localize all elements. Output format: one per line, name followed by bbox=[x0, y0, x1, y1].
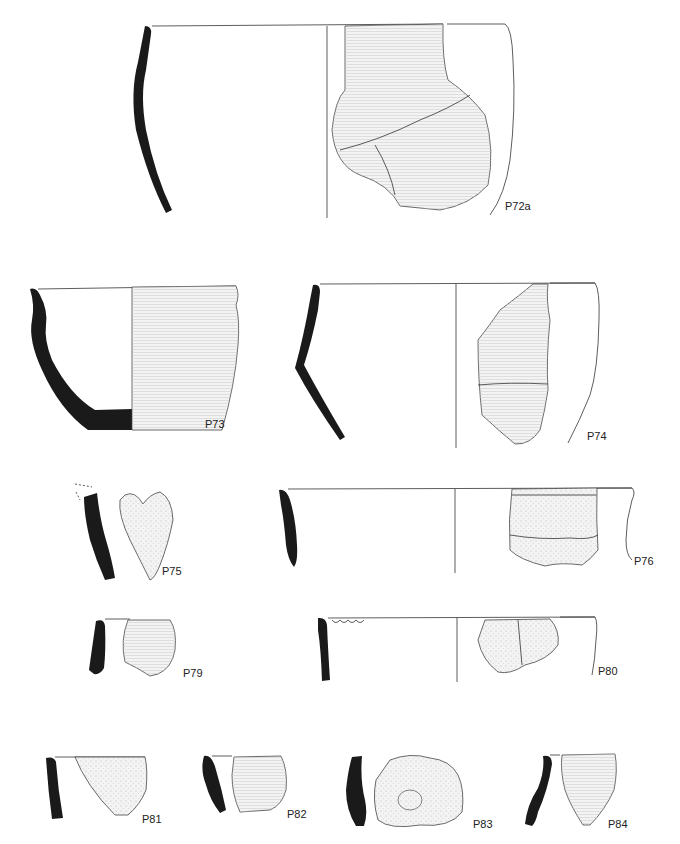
label-p75: P75 bbox=[162, 565, 182, 577]
vessel-p72a bbox=[133, 24, 514, 218]
label-p79: P79 bbox=[183, 667, 203, 679]
vessel-p75 bbox=[75, 484, 173, 580]
vessel-p84 bbox=[525, 754, 616, 826]
label-p80: P80 bbox=[598, 665, 618, 677]
label-p83: P83 bbox=[473, 818, 493, 830]
label-p76: P76 bbox=[634, 555, 654, 567]
label-p81: P81 bbox=[142, 813, 162, 825]
pottery-plate: P72a P73 P74 P75 P76 P79 P80 P81 P82 P83… bbox=[0, 0, 680, 844]
label-p82: P82 bbox=[287, 808, 307, 820]
drawings bbox=[0, 0, 680, 844]
vessel-p80 bbox=[318, 617, 597, 682]
vessel-p82 bbox=[202, 756, 286, 813]
vessel-p81 bbox=[46, 757, 147, 819]
vessel-p83 bbox=[346, 755, 463, 826]
label-p72a: P72a bbox=[505, 200, 531, 212]
label-p84: P84 bbox=[608, 818, 628, 830]
label-p74: P74 bbox=[587, 430, 607, 442]
vessel-p79 bbox=[89, 619, 175, 676]
vessel-p76 bbox=[279, 488, 634, 573]
vessel-p74 bbox=[295, 283, 599, 448]
label-p73: P73 bbox=[205, 418, 225, 430]
vessel-p73 bbox=[30, 286, 239, 430]
